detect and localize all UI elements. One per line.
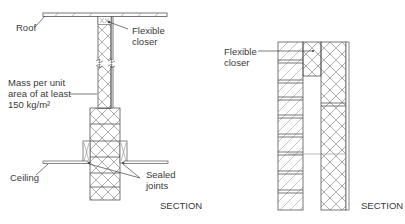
ceiling-label: Ceiling — [10, 172, 39, 183]
roof-label: Roof — [16, 22, 36, 33]
sealed-joints-label: Sealed joints — [146, 169, 176, 191]
lower-wall — [83, 108, 127, 200]
roof-slab — [43, 13, 167, 17]
section-drawings — [0, 0, 405, 224]
section-label-left: SECTION — [160, 200, 202, 211]
upper-wall — [96, 17, 115, 109]
section-label-right: SECTION — [361, 200, 403, 211]
flexible-closer-label-right: Flexible closer — [224, 46, 257, 68]
flexible-closer-label-left: Flexible closer — [132, 25, 165, 47]
right-section-diagram — [258, 42, 349, 210]
mass-label: Mass per unit area of at least 150 kg/m² — [8, 77, 71, 110]
